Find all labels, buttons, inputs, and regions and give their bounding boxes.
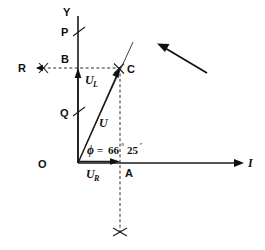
tick-mark-Q [73, 107, 85, 116]
i-axis-arrowhead [234, 159, 244, 167]
label-angle-phi: ϕ = 66 ° 25 ′ [87, 142, 142, 157]
label-vector-UR: U R [86, 167, 100, 183]
label-axis-I: I [247, 156, 254, 170]
label-angle-degrees: 66 [108, 144, 120, 156]
label-point-B: B [61, 53, 69, 65]
label-vector-UR-subscript: R [93, 174, 100, 183]
label-angle-minutes: 25 [127, 144, 139, 156]
label-angle-equals: = [97, 144, 103, 156]
label-point-R: R [18, 62, 26, 74]
label-point-A: A [125, 167, 133, 179]
label-point-O: O [38, 158, 47, 170]
tick-mark-P [73, 27, 85, 36]
vector-U-arrowhead [112, 68, 120, 78]
label-vector-UL-subscript: L [92, 80, 98, 89]
label-axis-Y: Y [63, 6, 71, 18]
rotation-direction-arrow [157, 44, 207, 74]
label-angle-degree-symbol: ° [121, 142, 124, 151]
vector-UL-arrowhead [75, 68, 82, 78]
label-point-C: C [127, 63, 135, 75]
vector-UR-arrowhead [110, 158, 120, 165]
label-vector-U: U [99, 116, 109, 130]
vector-diagram: Y P B Q R C A O I U L U R U ϕ = 66 ° 25 … [0, 0, 265, 250]
label-vector-UL: U L [85, 73, 98, 89]
label-point-Q: Q [60, 107, 69, 119]
phasor-diagram-container: Y P B Q R C A O I U L U R U ϕ = 66 ° 25 … [0, 0, 265, 250]
label-angle-minute-symbol: ′ [140, 142, 142, 151]
cross-mark-below-A [113, 228, 127, 236]
label-angle-symbol: ϕ [87, 143, 94, 157]
label-point-P: P [61, 26, 68, 38]
rotation-arrow-shaft [165, 48, 207, 73]
rotation-arrow-head [157, 44, 170, 53]
